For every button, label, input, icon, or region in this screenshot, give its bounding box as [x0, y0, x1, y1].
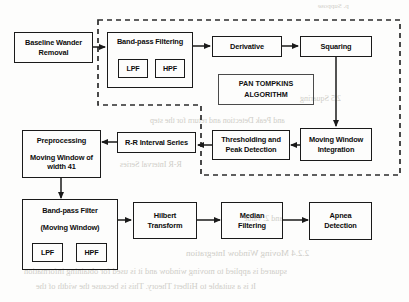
node-pan-tompkins-algorithm-label: PAN TOMPKINS ALGORITHM: [218, 74, 314, 105]
watermark-text: R-R Interval Series: [120, 160, 182, 169]
node-hpf-top[interactable]: HPF: [155, 59, 185, 78]
watermark-text: It is a suitable to Hilbert Theory. This…: [36, 281, 256, 291]
node-label: Apnea: [330, 211, 352, 221]
watermark-text: and Peak Detection and return for the st…: [150, 116, 285, 125]
node-label-line2: Detection: [324, 221, 356, 231]
node-label: Band-pass Filtering: [117, 37, 183, 47]
node-label: Hilbert: [154, 211, 176, 221]
node-label-line3: width 41: [47, 162, 75, 172]
node-label: Median: [240, 211, 265, 221]
node-label: LPF: [126, 64, 139, 74]
node-lpf-top[interactable]: LPF: [118, 59, 148, 78]
node-label: Thresholding and: [221, 135, 281, 145]
node-label-line2: Removal: [39, 48, 69, 58]
node-derivative[interactable]: Derivative: [212, 36, 282, 57]
node-baseline-wander-removal[interactable]: Baseline Wander Removal: [14, 32, 93, 63]
flowchart-canvas: p. Suppose 2.5 Squaring 2.2.4 Moving Win…: [0, 0, 409, 302]
node-label: R-R Interval Series: [125, 138, 188, 148]
node-label-line2: Moving Window of: [30, 153, 93, 163]
node-label: Derivative: [230, 42, 264, 52]
node-lpf-bottom[interactable]: LPF: [32, 243, 63, 262]
node-median-filtering[interactable]: Median Filtering: [221, 202, 283, 239]
node-moving-window-integration[interactable]: Moving Window Integration: [300, 128, 372, 161]
watermark-text: p. Suppose: [318, 2, 349, 10]
node-hpf-bottom[interactable]: HPF: [76, 243, 107, 262]
node-label-line2: Transform: [148, 221, 183, 231]
node-label: Preprocessing: [37, 136, 86, 146]
node-label: Squaring: [321, 42, 352, 52]
node-squaring[interactable]: Squaring: [300, 36, 372, 57]
node-label-line2: Filtering: [238, 221, 266, 231]
node-thresholding-and-peak-detection[interactable]: Thresholding and Peak Detection: [212, 130, 290, 160]
node-label: Moving Window: [309, 135, 363, 145]
node-label: Band-pass Filter: [42, 206, 98, 216]
node-label-line2: Peak Detection: [226, 145, 277, 155]
node-label-line2: ALGORITHM: [244, 90, 288, 100]
node-label: HPF: [163, 64, 177, 74]
node-preprocessing[interactable]: Preprocessing Moving Window of width 41: [22, 130, 101, 178]
node-label: HPF: [85, 248, 99, 258]
watermark-text: 2.2.4 Moving Window Integration: [186, 248, 309, 258]
node-label-line2: (Moving Window): [41, 223, 100, 233]
node-label-line2: Integration: [318, 145, 355, 155]
node-rr-interval-series[interactable]: R-R Interval Series: [117, 132, 196, 153]
node-label: PAN TOMPKINS: [239, 79, 293, 89]
node-hilbert-transform[interactable]: Hilbert Transform: [133, 202, 197, 239]
node-apnea-detection[interactable]: Apnea Detection: [309, 202, 372, 240]
node-label: Baseline Wander: [25, 38, 82, 48]
node-label: LPF: [41, 248, 54, 258]
